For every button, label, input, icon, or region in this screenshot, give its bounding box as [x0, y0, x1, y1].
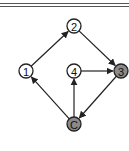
- node-4: 4: [67, 64, 81, 78]
- node-3: 3: [114, 64, 128, 78]
- node-2: 2: [67, 19, 81, 33]
- edge-2-to-3: [79, 31, 115, 66]
- node-label: C: [70, 119, 78, 131]
- graph-diagram: 1234C: [0, 0, 129, 151]
- node-label: 3: [118, 66, 124, 78]
- node-label: 1: [23, 66, 29, 78]
- node-label: 2: [71, 21, 77, 33]
- node-label: 4: [71, 66, 77, 78]
- edge-3-to-C: [79, 76, 116, 118]
- node-C: C: [67, 117, 81, 131]
- edge-C-to-1: [31, 77, 69, 119]
- node-1: 1: [19, 64, 33, 78]
- edge-1-to-2: [31, 31, 68, 66]
